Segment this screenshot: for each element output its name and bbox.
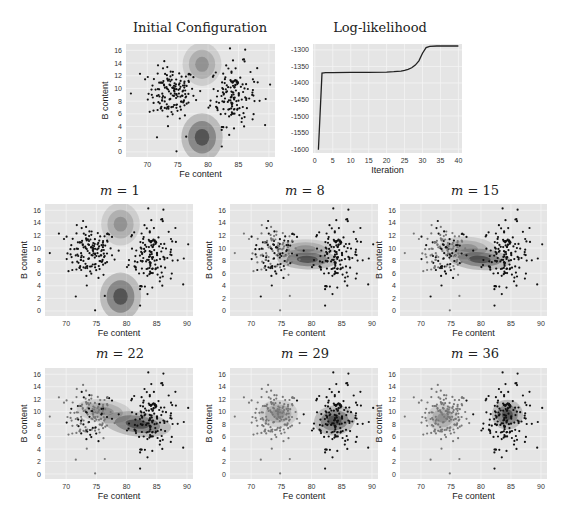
panel-initial-configuration: Initial Configuration 707580859002468101… <box>85 20 285 180</box>
y-tick-label: 10 <box>388 408 396 415</box>
y-tick-label: -1500 <box>291 113 309 120</box>
x-tick-label: 80 <box>477 483 485 490</box>
y-tick-label: 12 <box>33 396 41 403</box>
y-tick-label: 16 <box>33 371 41 378</box>
x-tick-label: 75 <box>174 161 182 168</box>
scatter-plot-m36: 70758085900246810121416Fe contentB conte… <box>360 343 550 513</box>
x-tick-label: 5 <box>331 157 335 164</box>
y-tick-label: -1350 <box>291 63 309 70</box>
y-tick-label: 10 <box>33 245 41 252</box>
y-tick-label: 2 <box>118 136 122 143</box>
y-tick-label: 14 <box>388 383 396 390</box>
x-tick-label: 85 <box>338 483 346 490</box>
y-tick-label: 16 <box>114 47 122 54</box>
y-tick-label: 10 <box>33 408 41 415</box>
y-tick-label: 16 <box>33 207 41 214</box>
y-tick-label: 14 <box>218 219 226 226</box>
x-tick-label: 80 <box>123 320 131 327</box>
x-tick-label: 70 <box>247 320 255 327</box>
x-tick-label: 75 <box>92 483 100 490</box>
x-tick-label: 75 <box>447 483 455 490</box>
y-tick-label: 0 <box>222 307 226 314</box>
y-tick-label: 2 <box>222 458 226 465</box>
scatter-plot-m22: 70758085900246810121416Fe contentB conte… <box>5 343 195 513</box>
panel-log-likelihood: Log-likelihood 0510152025303540-1300-135… <box>285 20 485 180</box>
y-tick-label: 12 <box>33 232 41 239</box>
x-tick-label: 20 <box>383 157 391 164</box>
y-tick-label: 8 <box>37 257 41 264</box>
y-tick-label: 2 <box>37 295 41 302</box>
y-tick-label: -1400 <box>291 79 309 86</box>
y-tick-label: 0 <box>392 471 396 478</box>
line-plot-log-likelihood: 0510152025303540-1300-1350-1400-1450-150… <box>285 20 485 180</box>
y-tick-label: 6 <box>392 433 396 440</box>
y-tick-label: 4 <box>392 282 396 289</box>
y-tick-label: 10 <box>218 408 226 415</box>
x-axis-label: Fe content <box>179 169 222 179</box>
y-tick-label: 6 <box>392 270 396 277</box>
y-tick-label: 4 <box>222 282 226 289</box>
x-axis-label: Iteration <box>371 165 404 175</box>
y-tick-label: 14 <box>218 383 226 390</box>
x-tick-label: 85 <box>507 320 515 327</box>
x-tick-label: 70 <box>247 483 255 490</box>
y-tick-label: 6 <box>37 433 41 440</box>
y-tick-label: 6 <box>222 433 226 440</box>
y-tick-label: 8 <box>222 421 226 428</box>
y-axis-label: B content <box>374 404 384 443</box>
x-tick-label: 70 <box>62 320 70 327</box>
panel-m29: m = 29 70758085900246810121416Fe content… <box>190 343 380 513</box>
y-tick-label: 16 <box>388 371 396 378</box>
y-tick-label: 14 <box>33 383 41 390</box>
y-tick-label: 14 <box>33 219 41 226</box>
x-axis-label: Fe content <box>283 328 326 338</box>
y-tick-label: 12 <box>218 232 226 239</box>
x-tick-label: 0 <box>313 157 317 164</box>
x-tick-label: 80 <box>308 483 316 490</box>
y-tick-label: -1600 <box>291 146 309 153</box>
x-axis-label: Fe content <box>98 491 141 501</box>
y-tick-label: 0 <box>222 471 226 478</box>
x-tick-label: 85 <box>507 483 515 490</box>
x-tick-label: 70 <box>143 161 151 168</box>
y-tick-label: 0 <box>37 307 41 314</box>
x-tick-label: 70 <box>417 320 425 327</box>
y-tick-label: 8 <box>118 98 122 105</box>
y-tick-label: 4 <box>222 446 226 453</box>
y-tick-label: -1300 <box>291 46 309 53</box>
scatter-plot-m15: 70758085900246810121416Fe contentB conte… <box>360 180 550 345</box>
y-tick-label: 16 <box>218 371 226 378</box>
x-tick-label: 70 <box>62 483 70 490</box>
y-tick-label: 0 <box>392 307 396 314</box>
x-tick-label: 85 <box>235 161 243 168</box>
y-tick-label: 6 <box>37 270 41 277</box>
gaussian-ellipse-cluster-2 <box>100 273 141 321</box>
scatter-plot-initial: 70758085900246810121416Fe contentB conte… <box>85 20 285 180</box>
panel-m1: m = 1 70758085900246810121416Fe contentB… <box>5 180 195 345</box>
y-tick-label: 2 <box>392 295 396 302</box>
x-tick-label: 75 <box>277 483 285 490</box>
y-tick-label: 0 <box>118 148 122 155</box>
y-tick-label: 16 <box>388 207 396 214</box>
y-tick-label: 4 <box>118 123 122 130</box>
panel-m8: m = 8 70758085900246810121416Fe contentB… <box>190 180 380 345</box>
x-tick-label: 90 <box>265 161 273 168</box>
y-tick-label: 4 <box>392 446 396 453</box>
y-tick-label: -1450 <box>291 96 309 103</box>
x-axis-label: Fe content <box>98 328 141 338</box>
y-tick-label: 6 <box>222 270 226 277</box>
y-tick-label: 10 <box>388 245 396 252</box>
y-tick-label: 2 <box>222 295 226 302</box>
x-tick-label: 25 <box>401 157 409 164</box>
panel-m15: m = 15 70758085900246810121416Fe content… <box>360 180 550 345</box>
y-tick-label: -1550 <box>291 129 309 136</box>
x-axis-label: Fe content <box>452 328 495 338</box>
scatter-plot-m8: 70758085900246810121416Fe contentB conte… <box>190 180 380 345</box>
x-tick-label: 85 <box>338 320 346 327</box>
y-tick-label: 12 <box>388 396 396 403</box>
x-axis-label: Fe content <box>283 491 326 501</box>
y-tick-label: 4 <box>37 282 41 289</box>
y-tick-label: 8 <box>222 257 226 264</box>
x-tick-label: 90 <box>537 320 545 327</box>
y-tick-label: 12 <box>388 232 396 239</box>
